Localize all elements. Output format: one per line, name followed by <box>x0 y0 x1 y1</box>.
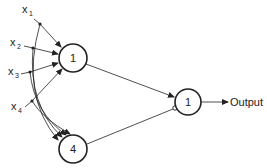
input-label-x2: x 2 <box>10 36 21 50</box>
input-label-x1: x 1 <box>22 3 33 17</box>
input-label-x3: x 3 <box>8 65 19 79</box>
svg-text:x: x <box>8 65 14 77</box>
output-label: Output <box>230 96 263 108</box>
output-node: 1 <box>175 89 201 115</box>
svg-text:x: x <box>10 36 16 48</box>
svg-text:x: x <box>11 100 17 112</box>
svg-text:3: 3 <box>15 72 19 79</box>
leader-x3 <box>21 72 30 74</box>
svg-text:1: 1 <box>29 10 33 17</box>
svg-text:2: 2 <box>17 43 21 50</box>
svg-text:1: 1 <box>185 96 191 108</box>
leader-x1 <box>34 19 40 24</box>
svg-text:x: x <box>22 3 28 15</box>
leader-x4 <box>25 101 32 107</box>
hidden-node-1: 1 <box>59 44 87 72</box>
leader-x2 <box>24 46 33 48</box>
svg-text:4: 4 <box>70 143 76 155</box>
neural-network-diagram: x 1 x 2 x 3 x 4 1 4 <box>0 0 267 168</box>
svg-text:1: 1 <box>70 52 76 64</box>
svg-text:4: 4 <box>18 107 22 114</box>
edge-hidden1-to-output-excitatory <box>86 64 174 97</box>
input-label-x4: x 4 <box>11 100 22 114</box>
hidden-node-4: 4 <box>59 135 87 163</box>
edge-hidden4-to-output-inhibitory <box>87 109 173 144</box>
